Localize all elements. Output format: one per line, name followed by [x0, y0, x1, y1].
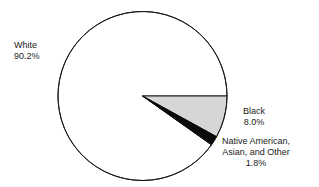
pie-label-other-percent: 1.8% — [222, 158, 290, 169]
pie-label-black: Black 8.0% — [243, 106, 265, 128]
pie-label-white-percent: 90.2% — [14, 51, 40, 62]
pie-label-white-name: White — [14, 40, 40, 51]
pie-label-other-line2: Asian, and Other — [222, 147, 290, 158]
pie-slices — [58, 11, 227, 180]
pie-label-other-line1: Native American, — [222, 136, 290, 147]
pie-label-black-percent: 8.0% — [243, 117, 265, 128]
pie-chart-figure: White 90.2% Black 8.0% Native American, … — [0, 0, 319, 187]
pie-label-black-name: Black — [243, 106, 265, 117]
pie-label-native-american-asian-other: Native American, Asian, and Other 1.8% — [222, 136, 290, 169]
pie-label-white: White 90.2% — [14, 40, 40, 62]
